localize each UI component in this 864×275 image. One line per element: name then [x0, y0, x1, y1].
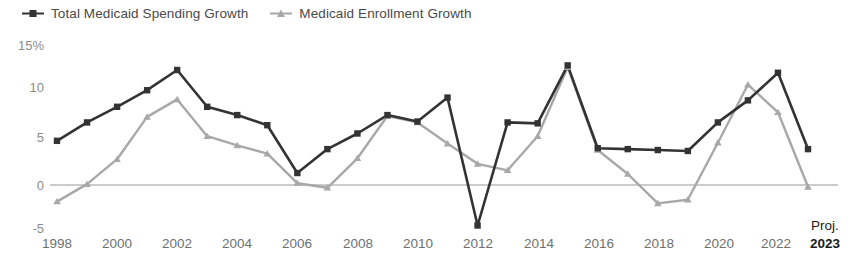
x-axis-label-2008: 2008: [328, 236, 388, 251]
x-axis-label-2010: 2010: [388, 236, 448, 251]
data-point-marker: [54, 138, 60, 144]
data-point-marker: [234, 112, 240, 118]
data-point-marker: [564, 62, 570, 68]
x-axis-label-2004: 2004: [207, 236, 267, 251]
data-point-marker: [745, 97, 751, 103]
data-point-marker: [84, 119, 90, 125]
data-point-marker: [264, 122, 270, 128]
data-point-marker: [625, 146, 631, 152]
data-point-marker: [414, 118, 420, 124]
data-point-marker: [534, 133, 542, 139]
x-axis-label-2012: 2012: [448, 236, 508, 251]
data-point-marker: [474, 222, 480, 228]
x-axis-label-2002: 2002: [147, 236, 207, 251]
x-axis-label-2020: 2020: [689, 236, 749, 251]
data-point-marker: [204, 104, 210, 110]
x-axis-label-2023-proj: 2023: [795, 236, 855, 251]
plot-area: [0, 0, 864, 275]
series-markers-spending: [54, 62, 811, 228]
x-axis-label-2016: 2016: [569, 236, 629, 251]
x-axis-label-2006: 2006: [267, 236, 327, 251]
data-point-marker: [294, 170, 300, 176]
series-line-spending: [57, 65, 808, 225]
data-point-marker: [715, 119, 721, 125]
x-axis-label-1998: 1998: [27, 236, 87, 251]
data-point-marker: [685, 148, 691, 154]
x-axis-label-2000: 2000: [87, 236, 147, 251]
data-point-marker: [804, 183, 812, 189]
data-point-marker: [173, 96, 181, 102]
data-point-marker: [324, 146, 330, 152]
data-point-marker: [144, 87, 150, 93]
x-axis-label-2014: 2014: [509, 236, 569, 251]
x-axis-label-2018: 2018: [629, 236, 689, 251]
data-point-marker: [805, 146, 811, 152]
data-point-marker: [174, 67, 180, 73]
data-point-marker: [534, 120, 540, 126]
medicaid-growth-chart: Total Medicaid Spending Growth Medicaid …: [0, 0, 864, 275]
data-point-marker: [595, 145, 601, 151]
data-point-marker: [504, 119, 510, 125]
data-point-marker: [444, 94, 450, 100]
data-point-marker: [384, 112, 390, 118]
data-point-marker: [114, 104, 120, 110]
projection-note: Proj.: [795, 218, 855, 233]
data-point-marker: [354, 130, 360, 136]
data-point-marker: [744, 81, 752, 87]
data-point-marker: [775, 70, 781, 76]
series-line-enrollment: [57, 67, 808, 203]
data-point-marker: [655, 147, 661, 153]
